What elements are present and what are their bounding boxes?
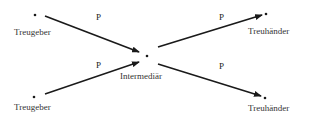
node-dot-intermediaer bbox=[146, 55, 149, 58]
node-dot-treugeber-bottom bbox=[33, 96, 36, 99]
edge-label-top-right: P bbox=[219, 12, 224, 22]
label-intermediaer: Intermediär bbox=[120, 71, 162, 81]
arrow-treugeber-top-to-intermediaer bbox=[45, 16, 139, 52]
label-treugeber-bottom: Treugeber bbox=[14, 102, 51, 112]
arrow-intermediaer-to-treuhaender-top bbox=[158, 15, 262, 47]
arrow-intermediaer-to-treuhaender-bottom bbox=[158, 64, 261, 96]
intermediary-flow-diagram: Treugeber Treugeber Intermediär Treuhänd… bbox=[0, 0, 311, 121]
edge-label-top-left: P bbox=[96, 12, 101, 22]
node-dot-treuhaender-bottom bbox=[264, 97, 267, 100]
node-dot-treugeber-top bbox=[34, 14, 37, 17]
label-treuhaender-top: Treuhänder bbox=[248, 26, 289, 36]
edge-label-bottom-left: P bbox=[96, 60, 101, 70]
node-dot-treuhaender-top bbox=[265, 13, 268, 16]
label-treuhaender-bottom: Treuhänder bbox=[248, 103, 289, 113]
edge-label-bottom-right: P bbox=[219, 61, 224, 71]
label-treugeber-top: Treugeber bbox=[14, 27, 51, 37]
